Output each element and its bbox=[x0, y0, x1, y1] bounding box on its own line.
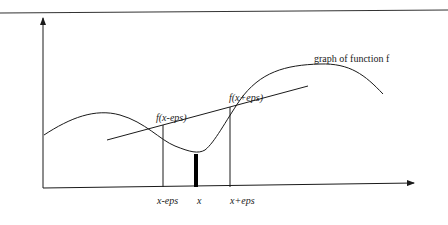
tick-label-x-plus-eps: x+eps bbox=[229, 195, 255, 206]
point-label-left: f(x-eps) bbox=[156, 112, 187, 124]
tick-label-x-minus-eps: x-eps bbox=[156, 195, 178, 206]
x-axis bbox=[43, 183, 414, 188]
tick-label-x: x bbox=[196, 195, 202, 206]
secant-line bbox=[107, 86, 308, 140]
function-curve bbox=[44, 64, 383, 152]
secant-diagram: graph of function f f(x-eps) f(x+eps) x-… bbox=[0, 0, 448, 225]
point-label-right: f(x+eps) bbox=[229, 92, 264, 104]
top-rule bbox=[0, 10, 448, 13]
graph-title-label: graph of function f bbox=[314, 53, 390, 64]
